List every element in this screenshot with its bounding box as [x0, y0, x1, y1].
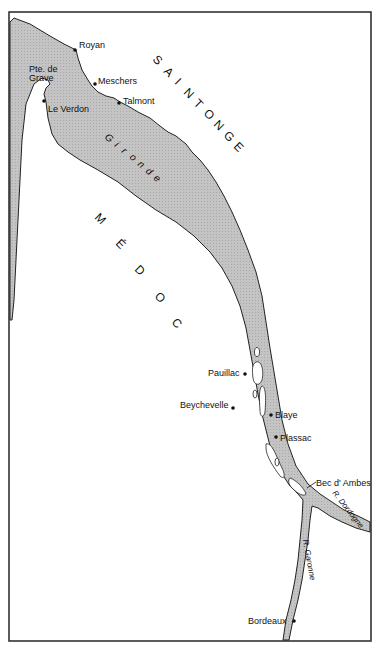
town-label-beychevelle: Beychevelle [180, 400, 229, 410]
town-dot-meschers [93, 82, 97, 86]
island-blaye [259, 386, 265, 416]
island [275, 458, 279, 466]
town-dot-talmont [117, 101, 121, 105]
town-label-pauillac: Pauillac [208, 368, 240, 378]
town-label-plassac: Plassac [280, 433, 312, 443]
town-dot-royan [73, 48, 77, 52]
town-label-bec-d-ambes: Bec d' Ambes [316, 478, 371, 488]
town-label-royan: Royan [79, 40, 105, 50]
town-label-bordeaux: Bordeaux [248, 616, 287, 626]
island [255, 348, 260, 357]
island-pauillac [252, 362, 262, 384]
map-canvas: Royan Pte. de Grave Meschers Talmont Le … [0, 0, 374, 646]
town-dot-bordeaux [292, 619, 296, 623]
island [253, 390, 257, 398]
town-dot-beychevelle [231, 406, 235, 410]
town-dot-plassac [274, 435, 278, 439]
town-label-le-verdon: Le Verdon [48, 104, 89, 114]
town-dot-pauillac [243, 372, 247, 376]
town-dot-le-verdon [42, 99, 46, 103]
gironde-estuary-map: Royan Pte. de Grave Meschers Talmont Le … [0, 0, 374, 646]
town-label-meschers: Meschers [98, 76, 138, 86]
town-label-grave: Grave [29, 73, 54, 83]
town-label-talmont: Talmont [123, 96, 155, 106]
town-label-blaye: Blaye [275, 410, 298, 420]
town-dot-blaye [269, 413, 273, 417]
